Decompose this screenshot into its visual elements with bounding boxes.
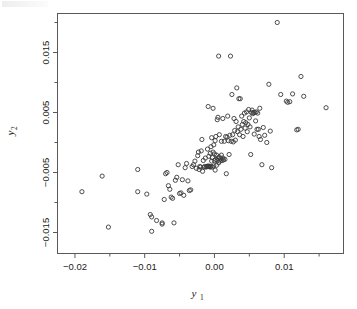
data-point: [230, 92, 234, 96]
data-point: [241, 134, 245, 138]
data-point: [172, 221, 176, 225]
y-axis-title-subscript: 2: [10, 126, 19, 130]
y-axis-ticks: [53, 23, 58, 233]
y-tick-label: 0.015: [40, 41, 51, 65]
data-point: [235, 86, 239, 90]
data-point: [211, 106, 215, 110]
x-axis-title-subscript: 1: [200, 293, 204, 302]
data-point: [267, 82, 271, 86]
data-point: [100, 174, 104, 178]
data-point: [176, 163, 180, 167]
x-axis-title: y 1: [191, 287, 204, 302]
data-point: [217, 133, 221, 137]
data-point: [200, 169, 204, 173]
data-point: [275, 20, 279, 24]
y-axis-title: y 2: [4, 126, 19, 136]
data-point: [279, 92, 283, 96]
data-point: [162, 197, 166, 201]
y-tick-label: −0.015: [40, 218, 51, 247]
data-point: [261, 125, 265, 129]
data-point: [221, 116, 225, 120]
x-tick-label: −0.01: [133, 261, 157, 272]
data-points-layer: [80, 20, 328, 233]
data-point: [299, 74, 303, 78]
data-point: [230, 133, 234, 137]
data-point: [324, 106, 328, 110]
data-point: [226, 114, 230, 118]
data-point: [154, 218, 158, 222]
data-point: [80, 190, 84, 194]
scatter-plot-figure: −0.02−0.010.000.01 −0.015−0.0050.0050.01…: [0, 0, 357, 309]
data-point: [228, 54, 232, 58]
data-point: [180, 178, 184, 182]
x-axis-ticks: [75, 254, 319, 259]
y-tick-label: −0.005: [40, 158, 51, 187]
y-tick-label: 0.005: [40, 101, 51, 125]
data-point: [270, 166, 274, 170]
y-axis-title-base: y: [4, 130, 16, 136]
data-point: [236, 125, 240, 129]
plot-frame: [58, 14, 344, 254]
data-point: [183, 166, 187, 170]
data-point: [249, 152, 253, 156]
data-point: [263, 133, 267, 137]
data-point: [222, 139, 226, 143]
data-point: [254, 119, 258, 123]
data-point: [136, 190, 140, 194]
data-point: [245, 130, 249, 134]
data-point: [224, 172, 228, 176]
data-point: [145, 192, 149, 196]
x-axis-title-base: y: [191, 287, 197, 299]
data-point: [302, 94, 306, 98]
data-point: [217, 54, 221, 58]
data-point: [290, 92, 294, 96]
data-point: [247, 116, 251, 120]
x-tick-label: 0.00: [205, 261, 224, 272]
x-tick-label: 0.01: [275, 261, 294, 272]
data-point: [234, 119, 238, 123]
y-axis-tick-labels: −0.015−0.0050.0050.015: [40, 41, 51, 248]
data-point: [184, 161, 188, 165]
data-point: [258, 106, 262, 110]
x-tick-label: −0.02: [63, 261, 87, 272]
data-point: [213, 168, 217, 172]
data-point: [150, 229, 154, 233]
data-point: [252, 132, 256, 136]
data-point: [136, 167, 140, 171]
x-axis-tick-labels: −0.02−0.010.000.01: [63, 261, 294, 272]
data-point: [186, 179, 190, 183]
plot-canvas: −0.02−0.010.000.01 −0.015−0.0050.0050.01…: [0, 0, 357, 309]
data-point: [182, 193, 186, 197]
data-point: [268, 129, 272, 133]
data-point: [206, 104, 210, 108]
data-point: [260, 163, 264, 167]
data-point: [227, 152, 231, 156]
data-point: [213, 139, 217, 143]
data-point: [200, 137, 204, 141]
data-point: [239, 127, 243, 131]
data-point: [106, 225, 110, 229]
data-point: [265, 140, 269, 144]
